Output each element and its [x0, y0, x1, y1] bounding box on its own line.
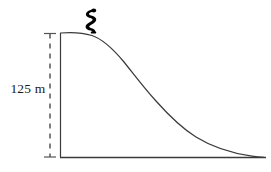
hill-diagram: 125 m	[0, 0, 271, 172]
skier-head	[91, 9, 96, 13]
skier-figure-icon	[86, 9, 97, 34]
height-label: 125 m	[6, 81, 50, 97]
skier-body-path	[86, 10, 97, 33]
skier-base	[91, 31, 96, 33]
hill-slope-curve	[61, 33, 265, 158]
